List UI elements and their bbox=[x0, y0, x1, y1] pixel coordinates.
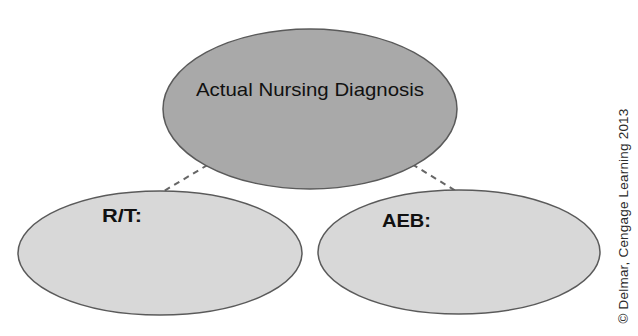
as-evidenced-by-ellipse bbox=[318, 190, 600, 314]
actual-nursing-diagnosis-node: Actual Nursing Diagnosis bbox=[163, 29, 457, 189]
as-evidenced-by-label: AEB: bbox=[382, 211, 431, 231]
related-to-node: R/T: bbox=[18, 191, 302, 315]
actual-nursing-diagnosis-label: Actual Nursing Diagnosis bbox=[196, 79, 424, 100]
nursing-diagnosis-diagram: Actual Nursing Diagnosis R/T: AEB: bbox=[0, 0, 638, 336]
copyright-notice: © Delmar, Cengage Learning 2013 bbox=[616, 108, 631, 323]
as-evidenced-by-node: AEB: bbox=[318, 190, 600, 314]
related-to-label: R/T: bbox=[102, 206, 142, 226]
related-to-ellipse bbox=[18, 191, 302, 315]
actual-nursing-diagnosis-ellipse bbox=[163, 29, 457, 189]
